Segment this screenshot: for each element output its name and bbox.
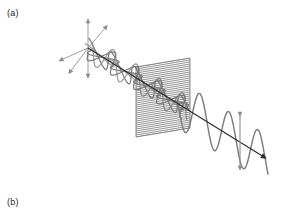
- axis-upper-right: [88, 27, 106, 48]
- coordinate-axes: [61, 21, 106, 76]
- polarization-diagram: [0, 0, 285, 213]
- polarized-wave-curve: [178, 93, 268, 174]
- figure-root: (a) (b): [0, 0, 285, 213]
- polarized-wave: [178, 93, 268, 174]
